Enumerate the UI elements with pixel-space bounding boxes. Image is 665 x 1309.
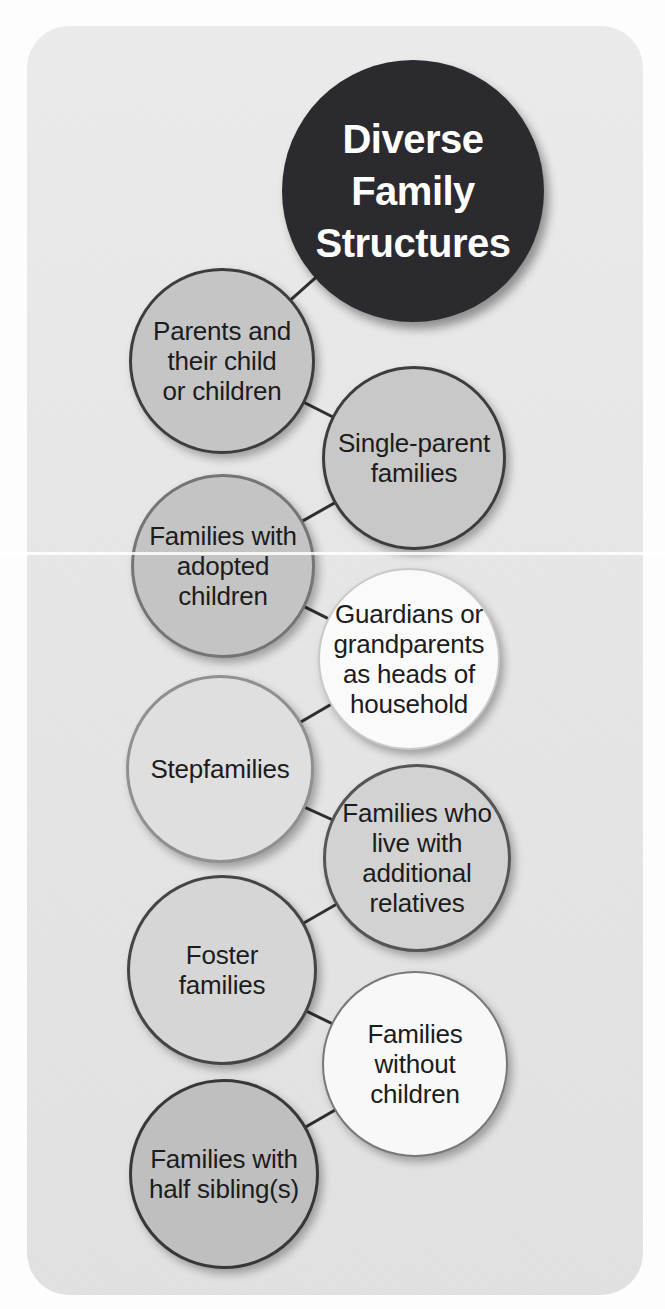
node-guardians-or-grandparents: Guardians or grandparents as heads of ho… [318,568,500,750]
node-label: Guardians or grandparents as heads of ho… [330,599,489,719]
node-single-parent-families: Single-parent families [322,366,506,550]
node-diverse-family-structures: Diverse Family Structures [282,60,544,322]
node-label: Stepfamilies [146,754,293,784]
node-label: Families without children [363,1019,466,1109]
node-foster-families: Foster families [127,875,317,1065]
node-parents-and-their-children: Parents and their child or children [129,268,315,454]
node-label-title: Diverse Family Structures [311,113,514,269]
node-families-with-adopted-children: Families with adopted children [131,474,315,658]
node-label: Families with adopted children [145,521,301,611]
node-label: Foster families [175,940,270,1000]
scan-artifact-line [0,552,665,555]
node-label: Families who live with additional relati… [338,798,495,918]
node-label: Single-parent families [334,428,494,488]
node-families-with-additional-relatives: Families who live with additional relati… [323,764,511,952]
node-label: Parents and their child or children [149,316,295,406]
node-label: Families with half sibling(s) [145,1144,303,1204]
node-stepfamilies: Stepfamilies [126,675,314,863]
node-families-with-half-siblings: Families with half sibling(s) [129,1079,319,1269]
node-families-without-children: Families without children [322,971,508,1157]
scanned-page: { "diagram": { "title": "Diverse Family … [0,0,665,1309]
